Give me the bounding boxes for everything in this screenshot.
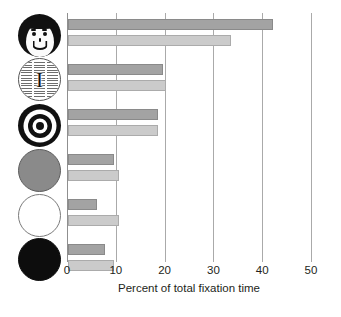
stimulus-row-face <box>18 14 63 59</box>
gridline-50 <box>311 13 312 262</box>
newsprint-letter: I <box>19 69 60 90</box>
bar-white-disc-light-gray-bar <box>68 215 119 226</box>
stimulus-row-gray-disc <box>18 149 63 194</box>
bar-gray-disc-dark-gray-bar <box>68 154 114 165</box>
white-disc-icon <box>18 194 61 237</box>
face-brow-right <box>42 29 47 31</box>
face-eye-right <box>43 32 47 36</box>
stimulus-row-white-disc <box>18 194 63 239</box>
fixation-time-bar-chart: I 01020304050 Percent of total f <box>0 0 341 317</box>
plot-area <box>67 13 311 262</box>
x-tick-label-30: 30 <box>207 263 220 277</box>
newsprint-text-icon: I <box>18 58 61 101</box>
x-tick-label-0: 0 <box>64 263 70 277</box>
x-tick-label-10: 10 <box>109 263 122 277</box>
bar-face-dark-gray-bar <box>68 19 273 30</box>
x-tick-label-40: 40 <box>256 263 269 277</box>
x-axis-tick-labels: 01020304050 <box>0 263 341 279</box>
stimulus-row-bullseye <box>18 104 63 149</box>
x-tick-label-50: 50 <box>305 263 318 277</box>
bar-black-disc-dark-gray-bar <box>68 244 105 255</box>
bar-newsprint-light-gray-bar <box>68 80 166 91</box>
bullseye-center <box>36 122 44 130</box>
bar-face-light-gray-bar <box>68 35 231 46</box>
face-brow-left <box>31 29 36 31</box>
gridline-20 <box>165 13 166 262</box>
gridline-30 <box>213 13 214 262</box>
bar-gray-disc-light-gray-bar <box>68 170 119 181</box>
smiling-face-icon <box>18 14 61 57</box>
x-tick-label-20: 20 <box>158 263 171 277</box>
bar-bullseye-dark-gray-bar <box>68 109 158 120</box>
stimulus-row-newsprint: I <box>18 58 63 103</box>
x-axis-title: Percent of total fixation time <box>67 281 311 295</box>
bullseye-target-icon <box>18 104 61 147</box>
bar-bullseye-light-gray-bar <box>68 125 158 136</box>
face-mouth <box>32 41 47 50</box>
bar-newsprint-dark-gray-bar <box>68 64 163 75</box>
face-eye-left <box>32 32 36 36</box>
face-hair <box>25 20 54 29</box>
gray-disc-icon <box>18 149 61 192</box>
bar-white-disc-dark-gray-bar <box>68 199 97 210</box>
gridline-40 <box>262 13 263 262</box>
